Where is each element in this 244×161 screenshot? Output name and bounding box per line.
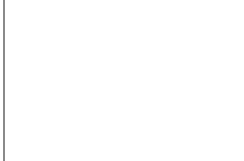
bottleneck-diagram [0, 0, 244, 161]
funnel-illustration [0, 0, 244, 161]
